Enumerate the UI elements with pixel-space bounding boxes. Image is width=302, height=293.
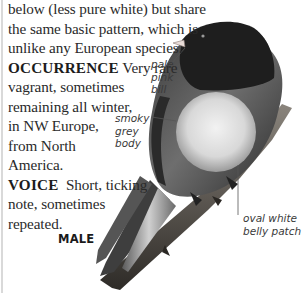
description-line: below (less pure white) but share (8, 0, 208, 19)
annotation-belly: oval white belly patch (243, 212, 301, 237)
annotation-body: smoky grey body (115, 112, 149, 150)
voice-line: note, sometimes (8, 194, 208, 214)
occurrence-line: remaining all winter, (8, 97, 208, 117)
voice-heading: VOICE (8, 176, 59, 193)
species-text: below (less pure white) but share the sa… (8, 0, 208, 233)
field-guide-page: below (less pure white) but share the sa… (0, 0, 302, 293)
description-line: unlike any European species. (8, 38, 208, 58)
description-line: the same basic pattern, which is (8, 19, 208, 39)
voice-line: VOICE Short, ticking (8, 175, 208, 195)
occurrence-line: OCCURRENCE Very rare (8, 58, 208, 78)
occurrence-line: America. (8, 155, 208, 175)
occurrence-heading: OCCURRENCE (8, 59, 119, 76)
voice-line: repeated. (8, 214, 208, 234)
sex-label: MALE (58, 232, 94, 246)
occurrence-line: vagrant, sometimes (8, 77, 208, 97)
occurrence-line: in NW Europe, (8, 116, 208, 136)
annotation-bill: pale pink bill (151, 58, 173, 96)
occurrence-line: from North (8, 136, 208, 156)
